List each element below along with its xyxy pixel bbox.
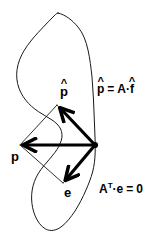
projection-equation: ^ p =A· ^ f [97, 83, 134, 95]
p-hat-vector [61, 109, 96, 146]
figure-canvas [0, 0, 161, 240]
column-space-outline [17, 13, 96, 230]
equation-equals-sign: = [107, 82, 114, 96]
least-squares-projection-figure: ^ p p e ^ p =A· ^ f AT·e=0 [0, 0, 161, 240]
orthogonality-matrix-a: A [99, 182, 108, 196]
equation-rhs-caret: ^ [129, 76, 135, 87]
e-vector-label: e [64, 186, 71, 199]
e-vector [66, 145, 95, 180]
vector-group [24, 109, 95, 180]
thin-line-p-tail-to-p-hat-tip [20, 105, 57, 145]
orthogonality-equation: AT·e=0 [99, 182, 143, 195]
p-vector-label: p [11, 150, 19, 163]
origin-point [92, 142, 98, 148]
orthogonality-vector-e: e [117, 182, 124, 196]
column-space-blob [17, 13, 96, 230]
equation-lhs-caret: ^ [97, 76, 103, 87]
p-hat-vector-label: ^ p [60, 85, 68, 98]
p-hat-caret: ^ [61, 78, 67, 89]
equation-matrix-a: A [117, 82, 126, 96]
orthogonality-equals-sign: = [126, 182, 133, 196]
orthogonality-zero: 0 [136, 182, 143, 196]
